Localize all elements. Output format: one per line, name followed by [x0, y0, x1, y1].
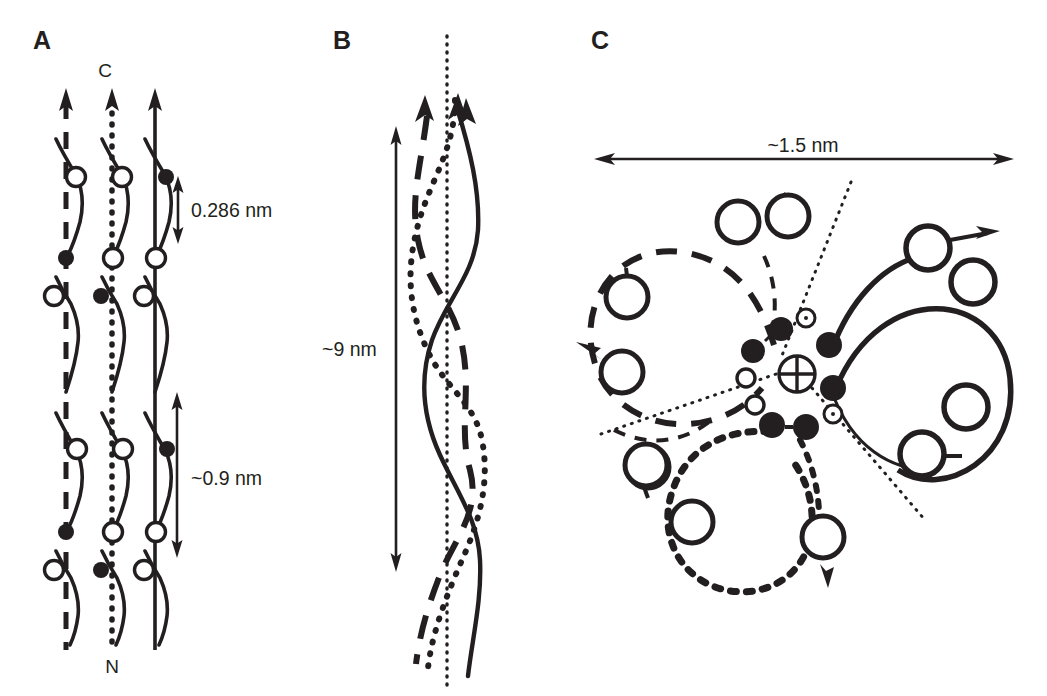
residue-large-open-circle — [625, 444, 667, 486]
small-open-circle — [737, 369, 755, 387]
residue-large-open-circle — [802, 516, 844, 558]
small-circle-dot — [831, 412, 835, 416]
collagen-triple-helix-figure: A C N — [0, 0, 1047, 696]
residue-large-open-circle — [606, 276, 648, 318]
residue-large-open-circle — [601, 351, 643, 393]
residue-open-circle — [45, 287, 64, 306]
small-circle-dot — [804, 316, 808, 320]
glycine-filled-circle — [759, 412, 785, 438]
residue-large-open-circle — [900, 432, 944, 476]
residue-open-circle — [135, 561, 154, 580]
residue-open-circle — [135, 287, 154, 306]
residue-open-circle — [147, 523, 166, 542]
panel-b-letter: B — [333, 26, 351, 54]
residue-large-open-circle — [671, 501, 713, 543]
residue-open-circle — [113, 168, 132, 187]
glycine-filled-circle — [741, 339, 765, 363]
residue-large-open-circle — [717, 201, 759, 243]
residue-filled-circle — [159, 441, 175, 457]
small-open-circle — [746, 396, 764, 414]
glycine-filled-circle — [820, 375, 846, 401]
helical-pitch-label: ~0.9 nm — [191, 467, 262, 489]
residue-filled-circle — [58, 524, 74, 540]
n-terminus-label: N — [105, 656, 119, 677]
helix-diameter-label: ~1.5 nm — [767, 134, 838, 156]
residue-filled-circle — [158, 169, 174, 185]
rise-per-residue-label: 0.286 nm — [191, 199, 272, 221]
residue-open-circle — [68, 440, 87, 459]
supercoil-pitch-label: ~9 nm — [322, 338, 377, 360]
panel-c-letter: C — [591, 26, 609, 54]
residue-open-circle — [67, 168, 86, 187]
glycine-filled-circle — [793, 414, 819, 440]
residue-filled-circle — [93, 562, 109, 578]
residue-open-circle — [104, 523, 123, 542]
residue-large-open-circle — [906, 226, 950, 270]
residue-open-circle — [45, 561, 64, 580]
residue-filled-circle — [93, 288, 109, 304]
c-terminus-label: C — [98, 60, 112, 81]
residue-large-open-circle — [951, 260, 995, 304]
residue-large-open-circle — [767, 195, 809, 237]
glycine-filled-circle — [816, 332, 842, 358]
residue-open-circle — [147, 249, 166, 268]
residue-open-circle — [104, 249, 123, 268]
residue-open-circle — [114, 440, 133, 459]
panel-a-letter: A — [33, 26, 51, 54]
residue-filled-circle — [58, 250, 74, 266]
helix-axis-symbol — [779, 356, 815, 392]
residue-large-open-circle — [944, 385, 988, 429]
glycine-filled-circle — [769, 317, 793, 341]
